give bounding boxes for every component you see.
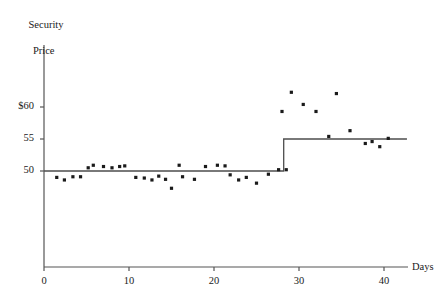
data-point bbox=[150, 178, 153, 181]
chart-plot-area bbox=[0, 0, 448, 305]
data-point bbox=[170, 187, 173, 190]
data-point bbox=[267, 173, 270, 176]
data-point bbox=[92, 164, 95, 167]
x-tick-label-20: 20 bbox=[202, 275, 226, 286]
data-point bbox=[285, 168, 288, 171]
data-point bbox=[71, 175, 74, 178]
x-tick-label-0: 0 bbox=[32, 275, 56, 286]
data-point bbox=[280, 110, 283, 113]
data-point bbox=[387, 137, 390, 140]
data-point bbox=[378, 145, 381, 148]
x-tick-label-10: 10 bbox=[117, 275, 141, 286]
data-point bbox=[123, 164, 126, 167]
data-point bbox=[157, 175, 160, 178]
data-point bbox=[302, 103, 305, 106]
data-point bbox=[87, 166, 90, 169]
data-point bbox=[102, 165, 105, 168]
data-point bbox=[277, 168, 280, 171]
data-point bbox=[178, 164, 181, 167]
data-point bbox=[327, 135, 330, 138]
data-point bbox=[134, 176, 137, 179]
x-tick-label-30: 30 bbox=[287, 275, 311, 286]
data-point bbox=[245, 176, 248, 179]
data-point bbox=[290, 91, 293, 94]
y-tick-label-55: 55 bbox=[0, 132, 34, 143]
x-axis-title: Days bbox=[412, 260, 434, 273]
data-point bbox=[118, 165, 121, 168]
data-point bbox=[223, 164, 226, 167]
data-point bbox=[229, 173, 232, 176]
y-axis-title: Security Price bbox=[18, 5, 64, 83]
security-price-chart: Security Price Days 5055$60 010203040 bbox=[0, 0, 448, 305]
data-point bbox=[110, 166, 113, 169]
axes-group bbox=[44, 45, 408, 267]
scatter-points bbox=[55, 91, 390, 190]
y-tick-label-60: $60 bbox=[0, 100, 34, 111]
data-point bbox=[63, 178, 66, 181]
data-point bbox=[237, 178, 240, 181]
x-tick-label-40: 40 bbox=[372, 275, 396, 286]
y-tick-label-50: 50 bbox=[0, 164, 34, 175]
data-point bbox=[181, 175, 184, 178]
y-axis-title-line2: Price bbox=[18, 44, 64, 57]
data-point bbox=[164, 178, 167, 181]
data-point bbox=[55, 176, 58, 179]
data-point bbox=[143, 176, 146, 179]
data-point bbox=[216, 164, 219, 167]
data-point bbox=[371, 140, 374, 143]
data-point bbox=[255, 182, 258, 185]
data-point bbox=[314, 110, 317, 113]
data-point bbox=[364, 142, 367, 145]
data-point bbox=[79, 175, 82, 178]
data-point bbox=[348, 129, 351, 132]
data-point bbox=[193, 178, 196, 181]
data-point bbox=[204, 165, 207, 168]
data-point bbox=[335, 92, 338, 95]
y-axis-title-line1: Security bbox=[29, 19, 64, 30]
